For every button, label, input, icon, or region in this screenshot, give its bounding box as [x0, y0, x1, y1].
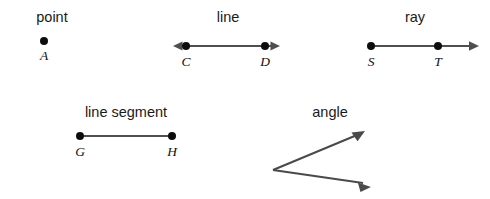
point-marker-t: [434, 42, 442, 50]
point-marker-a: [40, 37, 48, 45]
figure-line-segment: line segment G H: [75, 104, 178, 159]
figure-angle: angle: [273, 104, 371, 192]
figure-title-line-segment: line segment: [85, 104, 167, 120]
point-label-s: S: [368, 54, 375, 69]
point-label-a: A: [39, 48, 49, 63]
point-label-g: G: [75, 144, 85, 159]
point-label-c: C: [181, 54, 191, 69]
figure-ray: ray S T: [367, 9, 479, 69]
figure-title-point: point: [36, 9, 67, 25]
point-marker-g: [76, 132, 84, 140]
line-arrowhead-right: [271, 42, 281, 51]
point-label-d: D: [259, 54, 270, 69]
figure-line: line C D: [173, 9, 280, 69]
point-marker-s: [367, 42, 375, 50]
point-marker-c: [182, 42, 190, 50]
figure-title-line: line: [217, 9, 240, 25]
point-marker-h: [168, 132, 176, 140]
geometry-terms-diagram: point A line C D ray S T line segment G …: [0, 0, 490, 199]
point-label-t: T: [434, 54, 443, 69]
angle-ray-upper-shaft: [273, 135, 357, 170]
ray-arrowhead-right: [469, 41, 479, 50]
figure-point: point A: [36, 9, 67, 63]
line-arrowhead-left: [173, 42, 183, 51]
angle-ray-lower-shaft: [273, 170, 363, 183]
point-marker-d: [261, 42, 269, 50]
figure-title-angle: angle: [312, 104, 347, 120]
figure-title-ray: ray: [405, 9, 426, 25]
angle-arrowhead-lower: [358, 183, 371, 192]
point-label-h: H: [166, 144, 178, 159]
